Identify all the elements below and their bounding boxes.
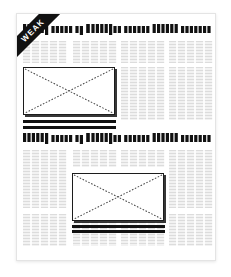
headline-middle <box>23 131 213 144</box>
text-block <box>169 214 213 246</box>
text-block <box>23 150 67 208</box>
text-block <box>73 41 117 63</box>
headline-top <box>23 22 213 35</box>
text-block <box>121 41 165 63</box>
image-placeholder-top <box>23 67 115 115</box>
rule-under-bottom-image <box>72 225 165 228</box>
rule-under-top-image <box>23 120 116 123</box>
text-block <box>169 41 213 63</box>
image-placeholder-bottom <box>72 173 164 221</box>
text-block <box>169 150 213 208</box>
rule-bottom-accent <box>72 230 165 233</box>
text-block <box>121 67 165 120</box>
article-page-sheet: WEAK <box>16 13 216 261</box>
text-block <box>121 150 165 167</box>
text-block <box>73 150 117 167</box>
document-canvas: WEAK <box>0 0 231 277</box>
text-block <box>169 67 213 120</box>
text-block <box>23 214 67 246</box>
rule-above-headline-mid <box>23 126 116 129</box>
article-page-content: WEAK <box>17 14 215 260</box>
